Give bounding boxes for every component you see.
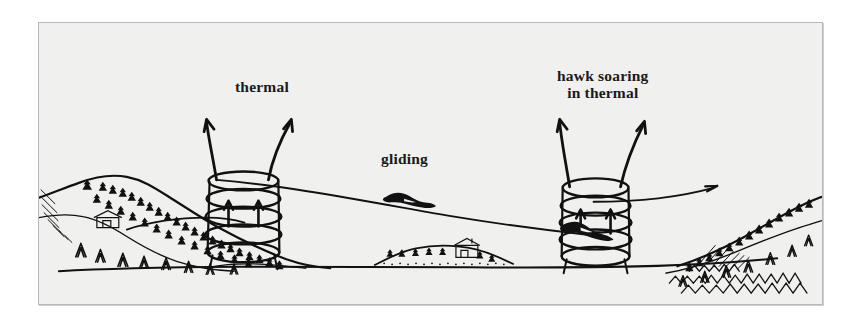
figure-frame: thermal gliding hawk soaring in thermal — [38, 22, 823, 305]
label-hawk-line-2: in thermal — [557, 84, 649, 101]
right-thermal-exit-arrows — [557, 119, 645, 187]
label-thermal: thermal — [235, 78, 289, 95]
left-thermal-column — [204, 119, 292, 269]
illustration-scene — [39, 23, 822, 304]
left-mountain-ridge — [39, 176, 330, 275]
center-hill-with-farmhouse — [374, 238, 514, 265]
right-mountain-ridge — [665, 197, 822, 293]
page-canvas: thermal gliding hawk soaring in thermal — [0, 0, 860, 330]
label-gliding: gliding — [381, 150, 428, 167]
label-hawk-soaring-in-thermal: hawk soaring in thermal — [557, 67, 649, 102]
right-thermal-column — [557, 119, 645, 273]
label-hawk-line-1: hawk soaring — [557, 67, 649, 84]
